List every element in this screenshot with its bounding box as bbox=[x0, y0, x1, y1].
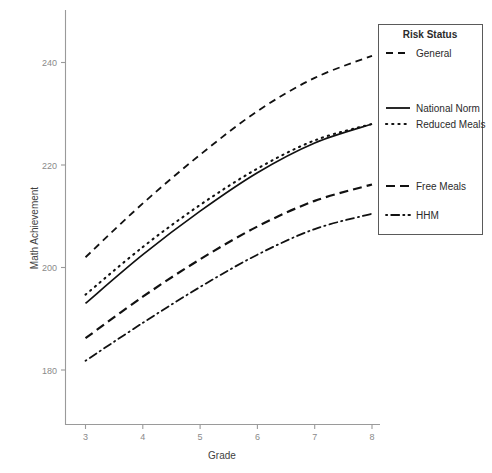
x-tick-label: 8 bbox=[369, 432, 374, 442]
chart-figure: 240 220 200 180 3 4 5 6 7 8 Grade Math A bbox=[0, 0, 492, 473]
y-axis-title: Math Achievement bbox=[29, 187, 40, 269]
chart-background bbox=[0, 0, 492, 473]
legend-title: Risk Status bbox=[403, 29, 458, 40]
y-tick-label: 240 bbox=[42, 58, 57, 68]
y-tick-label: 180 bbox=[42, 366, 57, 376]
math-achievement-line-chart: 240 220 200 180 3 4 5 6 7 8 Grade Math A bbox=[0, 0, 492, 473]
legend-label: Reduced Meals bbox=[416, 119, 485, 130]
x-tick-label: 4 bbox=[140, 432, 145, 442]
legend-label: HHM bbox=[416, 210, 439, 221]
y-tick-label: 220 bbox=[42, 161, 57, 171]
legend-label: General bbox=[416, 48, 452, 59]
legend-label: National Norm bbox=[416, 103, 480, 114]
x-tick-label: 6 bbox=[255, 432, 260, 442]
legend-label: Free Meals bbox=[416, 181, 466, 192]
x-tick-label: 3 bbox=[83, 432, 88, 442]
y-tick-label: 200 bbox=[42, 263, 57, 273]
x-axis-title: Grade bbox=[208, 450, 236, 461]
x-tick-label: 5 bbox=[198, 432, 203, 442]
x-tick-label: 7 bbox=[312, 432, 317, 442]
